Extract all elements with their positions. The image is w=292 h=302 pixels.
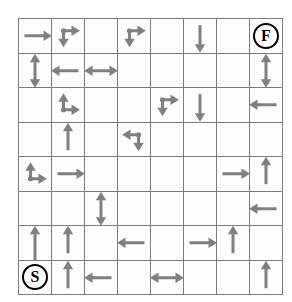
maze-grid-row: S [19, 260, 283, 295]
maze-cell-r1-c3[interactable] [85, 19, 118, 54]
maze-cell-r6-c8[interactable] [250, 191, 283, 226]
arrow-icon [184, 88, 216, 122]
maze-cell-r5-c4[interactable] [118, 157, 151, 192]
maze-cell-r5-c6[interactable] [184, 157, 217, 192]
maze-cell-r6-c7[interactable] [217, 191, 250, 226]
maze-cell-r4-c4[interactable] [118, 122, 151, 157]
maze-cell-r2-c6[interactable] [184, 53, 217, 88]
arrow-icon [250, 88, 282, 122]
maze-cell-r5-c3[interactable] [85, 157, 118, 192]
maze-cell-r5-c8[interactable] [250, 157, 283, 192]
empty-cell [151, 157, 183, 191]
arrow-icon [52, 54, 84, 88]
junction-dot-icon [118, 19, 150, 53]
start-marker-icon: S [19, 261, 51, 295]
maze-cell-r6-c2[interactable] [52, 191, 85, 226]
arrow-icon [151, 261, 183, 295]
maze-cell-r7-c4[interactable] [118, 226, 151, 261]
maze-cell-r7-c7[interactable] [217, 226, 250, 261]
maze-cell-r3-c5[interactable] [151, 88, 184, 123]
empty-cell [118, 261, 150, 295]
maze-cell-r3-c1[interactable] [19, 88, 52, 123]
maze-cell-r1-c6[interactable] [184, 19, 217, 54]
maze-cell-r4-c8[interactable] [250, 122, 283, 157]
maze-cell-r3-c3[interactable] [85, 88, 118, 123]
maze-cell-r7-c2[interactable] [52, 226, 85, 261]
maze-grid-row [19, 157, 283, 192]
maze-cell-r8-c7[interactable] [217, 260, 250, 295]
arrow-icon [52, 261, 84, 295]
maze-grid-row [19, 53, 283, 88]
arrow-icon [250, 54, 282, 88]
maze-cell-r4-c2[interactable] [52, 122, 85, 157]
arrow-icon [250, 261, 282, 295]
maze-cell-r2-c7[interactable] [217, 53, 250, 88]
maze-cell-r2-c4[interactable] [118, 53, 151, 88]
maze-cell-r6-c1[interactable] [19, 191, 52, 226]
maze-cell-r8-c4[interactable] [118, 260, 151, 295]
maze-cell-r4-c7[interactable] [217, 122, 250, 157]
maze-cell-r3-c8[interactable] [250, 88, 283, 123]
maze-cell-r8-c2[interactable] [52, 260, 85, 295]
junction-dot-icon [118, 123, 150, 157]
maze-cell-r7-c8[interactable] [250, 226, 283, 261]
grid-maze-figure: FS [0, 0, 292, 302]
maze-cell-r8-c3[interactable] [85, 260, 118, 295]
maze-cell-r6-c3[interactable] [85, 191, 118, 226]
maze-cell-r2-c3[interactable] [85, 53, 118, 88]
maze-cell-r7-c5[interactable] [151, 226, 184, 261]
arrow-icon [19, 226, 51, 260]
maze-cell-r1-c7[interactable] [217, 19, 250, 54]
empty-cell [184, 54, 216, 88]
maze-cell-r4-c3[interactable] [85, 122, 118, 157]
arrow-icon [217, 226, 249, 260]
junction-dot-icon [52, 88, 84, 122]
maze-grid-row [19, 226, 283, 261]
maze-cell-r2-c8[interactable] [250, 53, 283, 88]
maze-cell-r3-c2[interactable] [52, 88, 85, 123]
maze-cell-r8-c8[interactable] [250, 260, 283, 295]
maze-cell-r6-c5[interactable] [151, 191, 184, 226]
arrow-icon [250, 157, 282, 191]
maze-cell-r7-c3[interactable] [85, 226, 118, 261]
maze-cell-r7-c6[interactable] [184, 226, 217, 261]
maze-cell-r8-c1[interactable]: S [19, 260, 52, 295]
arrow-icon [19, 19, 51, 53]
maze-cell-r3-c6[interactable] [184, 88, 217, 123]
maze-cell-r4-c6[interactable] [184, 122, 217, 157]
maze-cell-r2-c1[interactable] [19, 53, 52, 88]
maze-cell-r8-c5[interactable] [151, 260, 184, 295]
empty-cell [184, 123, 216, 157]
arrow-icon [184, 226, 216, 260]
maze-cell-r3-c7[interactable] [217, 88, 250, 123]
maze-cell-r1-c8[interactable]: F [250, 19, 283, 54]
empty-cell [118, 192, 150, 226]
maze-cell-r1-c5[interactable] [151, 19, 184, 54]
maze-cell-r1-c4[interactable] [118, 19, 151, 54]
empty-cell [217, 123, 249, 157]
maze-cell-r2-c2[interactable] [52, 53, 85, 88]
empty-cell [217, 19, 249, 53]
empty-cell [85, 157, 117, 191]
empty-cell [250, 123, 282, 157]
maze-cell-r1-c2[interactable] [52, 19, 85, 54]
empty-cell [85, 123, 117, 157]
maze-cell-r4-c5[interactable] [151, 122, 184, 157]
maze-cell-r5-c5[interactable] [151, 157, 184, 192]
empty-cell [85, 88, 117, 122]
maze-cell-r5-c7[interactable] [217, 157, 250, 192]
empty-cell [184, 157, 216, 191]
maze-grid-row [19, 191, 283, 226]
maze-cell-r2-c5[interactable] [151, 53, 184, 88]
maze-cell-r6-c4[interactable] [118, 191, 151, 226]
maze-cell-r8-c6[interactable] [184, 260, 217, 295]
maze-cell-r7-c1[interactable] [19, 226, 52, 261]
maze-cell-r5-c2[interactable] [52, 157, 85, 192]
maze-cell-r4-c1[interactable] [19, 122, 52, 157]
arrow-icon [118, 226, 150, 260]
maze-cell-r3-c4[interactable] [118, 88, 151, 123]
maze-cell-r6-c6[interactable] [184, 191, 217, 226]
maze-cell-r1-c1[interactable] [19, 19, 52, 54]
maze-cell-r5-c1[interactable] [19, 157, 52, 192]
arrow-icon [52, 157, 84, 191]
